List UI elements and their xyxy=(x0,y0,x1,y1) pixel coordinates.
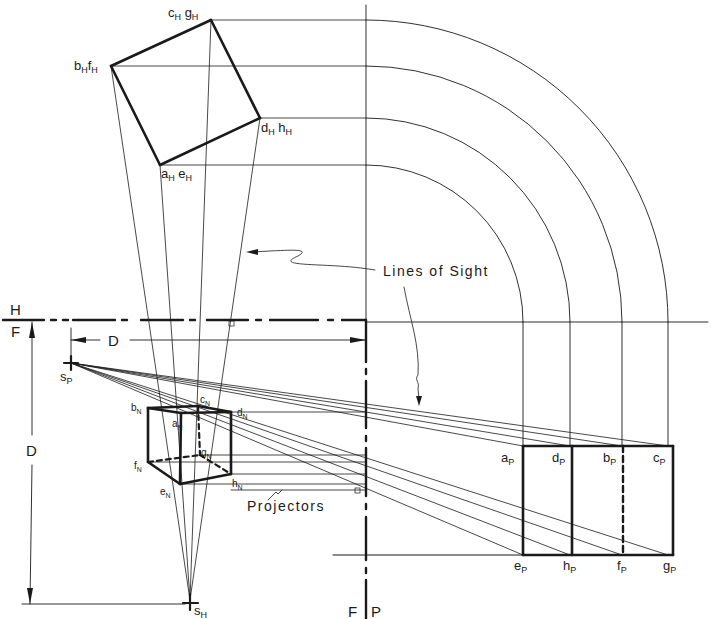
label-h-p: hP xyxy=(563,559,576,575)
dimension-label-vertical: D xyxy=(26,443,37,458)
label-a-p: aP xyxy=(501,451,514,467)
fold-label-p-bottom: P xyxy=(371,604,381,619)
fold-label-f-bottom: F xyxy=(348,604,357,619)
elevation-cube xyxy=(148,406,231,484)
annotation-lines-of-sight: Lines of Sight xyxy=(383,264,489,278)
label-cg-h: cH gH xyxy=(168,6,198,22)
label-c-p: cP xyxy=(653,451,666,467)
projection-diagram: cH gH bHfH dH hH aH eH bN cN dN aN gN fN… xyxy=(0,0,711,619)
perspective-view xyxy=(523,446,673,555)
lines-of-sight xyxy=(111,20,260,600)
label-e-n: eN xyxy=(160,487,171,499)
label-d-n: dN xyxy=(237,408,248,420)
fold-label-f: F xyxy=(11,324,20,339)
diagram-drawing xyxy=(0,0,711,619)
label-g-p: gP xyxy=(663,559,676,575)
label-b-n: bN xyxy=(131,403,142,415)
label-b-p: bP xyxy=(603,451,616,467)
label-ae-h: aH eH xyxy=(161,167,192,183)
label-f-p: fP xyxy=(617,559,627,575)
dimension-vertical xyxy=(22,322,185,604)
label-h-n: hN xyxy=(232,479,243,491)
label-station-point-plan: sH xyxy=(194,604,207,619)
label-dh-h: dH hH xyxy=(261,121,292,137)
annotation-projectors: Projectors xyxy=(247,499,325,513)
fold-label-h: H xyxy=(10,302,21,317)
label-bf-h: bHfH xyxy=(74,59,98,75)
label-e-p: eP xyxy=(514,559,527,575)
label-d-p: dP xyxy=(552,451,565,467)
label-c-n: cN xyxy=(200,395,210,407)
label-station-point-profile: sP xyxy=(60,370,73,386)
plan-square xyxy=(111,20,260,165)
projectors xyxy=(71,363,668,555)
label-a-n: aN xyxy=(172,419,183,431)
label-g-n: gN xyxy=(201,448,212,460)
dimension-label-horizontal: D xyxy=(108,333,119,348)
label-f-n: fN xyxy=(134,461,142,473)
